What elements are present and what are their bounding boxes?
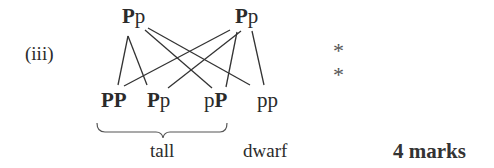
phenotype-tall: tall bbox=[150, 140, 174, 162]
tall-brace bbox=[97, 123, 227, 138]
asterisk-marker: * bbox=[333, 62, 344, 88]
cross-line bbox=[128, 36, 147, 85]
offspring-PP: PP bbox=[101, 88, 127, 113]
cross-line bbox=[118, 36, 128, 85]
cross-line bbox=[226, 32, 237, 87]
offspring-pp: pp bbox=[257, 88, 278, 113]
offspring-Pp: Pp bbox=[147, 88, 170, 113]
offspring-pP: pP bbox=[204, 88, 227, 113]
cross-line bbox=[252, 31, 264, 85]
asterisk-marker: * bbox=[333, 38, 344, 64]
cross-line bbox=[124, 30, 230, 86]
phenotype-dwarf: dwarf bbox=[243, 140, 287, 162]
marks-label: 4 marks bbox=[393, 139, 466, 164]
